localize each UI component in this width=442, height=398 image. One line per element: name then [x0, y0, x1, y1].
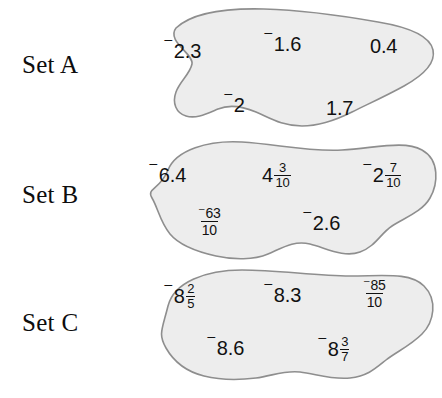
set-label-b: Set B: [22, 182, 130, 207]
fraction-neg-63-10: ⁻6310: [197, 206, 222, 238]
set-b-value-3: ⁻6310: [197, 206, 222, 238]
set-label-c: Set C: [22, 310, 130, 335]
raised-minus-icon: ⁻: [163, 34, 173, 54]
raised-minus-icon: ⁻: [362, 158, 372, 178]
minus-icon: ⁻: [363, 276, 370, 292]
set-b-value-0: ⁻6.4: [148, 165, 186, 185]
minus-icon: ⁻: [198, 204, 205, 220]
set-b-value-4: ⁻2.6: [302, 213, 340, 233]
raised-minus-icon: ⁻: [317, 332, 327, 352]
raised-minus-icon: ⁻: [263, 278, 273, 298]
set-a-blob: [130, 6, 442, 136]
fraction-3-10: 310: [274, 161, 290, 190]
fraction-3-7: 37: [340, 335, 349, 364]
diagram-canvas: Set A ⁻2.3 ⁻1.6 0.4 ⁻2 1.7 Set B ⁻6.4: [0, 0, 442, 398]
raised-minus-icon: ⁻: [302, 206, 312, 226]
raised-minus-icon: ⁻: [163, 279, 173, 299]
set-c-value-1: ⁻8.3: [263, 285, 301, 305]
set-a-value-3: ⁻2: [223, 95, 245, 115]
set-a-value-2: 0.4: [370, 36, 397, 56]
set-row-c: Set C ⁻825 ⁻8.3 ⁻8510 ⁻8.6 ⁻837: [0, 264, 442, 394]
set-a-value-1: ⁻1.6: [263, 34, 301, 54]
fraction-2-5: 25: [186, 282, 195, 311]
set-a-value-0: ⁻2.3: [163, 41, 201, 61]
raised-minus-icon: ⁻: [206, 331, 216, 351]
set-a-value-4: 1.7: [326, 98, 353, 118]
set-c-value-3: ⁻8.6: [206, 338, 244, 358]
fraction-neg-85-10: ⁻8510: [362, 278, 387, 310]
set-label-a: Set A: [22, 52, 130, 77]
set-b-value-1: 4310: [262, 161, 291, 190]
set-b-value-2: ⁻2710: [362, 161, 401, 190]
set-b-blob: [130, 136, 442, 266]
set-row-a: Set A ⁻2.3 ⁻1.6 0.4 ⁻2 1.7: [0, 6, 442, 136]
raised-minus-icon: ⁻: [263, 27, 273, 47]
raised-minus-icon: ⁻: [148, 158, 158, 178]
set-c-value-4: ⁻837: [317, 335, 349, 364]
set-c-value-0: ⁻825: [163, 282, 195, 311]
fraction-7-10: 710: [385, 161, 401, 190]
set-row-b: Set B ⁻6.4 4310 ⁻2710 ⁻6310 ⁻2.6: [0, 136, 442, 266]
set-c-value-2: ⁻8510: [362, 278, 387, 310]
raised-minus-icon: ⁻: [223, 88, 233, 108]
